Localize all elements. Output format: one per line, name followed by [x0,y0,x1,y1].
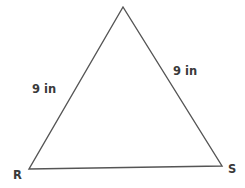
side-label-left: 9 in [32,82,56,96]
vertex-label-r: R [13,168,22,182]
triangle-diagram: 9 in 9 in R S [0,0,245,188]
vertex-label-s: S [228,162,236,176]
side-label-right: 9 in [173,64,197,78]
triangle-shape [29,7,222,169]
